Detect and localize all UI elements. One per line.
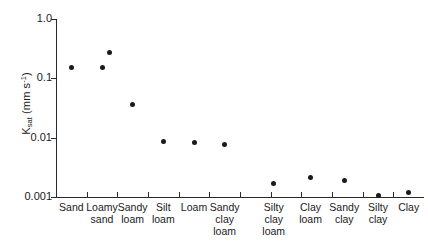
chart-figure: Ksat (mm s-1) 1.00.10.010.001 SandLoamys… bbox=[0, 0, 428, 248]
data-point bbox=[107, 50, 112, 55]
x-axis-category-label-line: loam bbox=[144, 213, 182, 225]
x-axis-category-label: Clay bbox=[390, 201, 428, 213]
x-axis-category-label-line: loam bbox=[255, 225, 293, 237]
x-axis-tick-mark bbox=[301, 192, 302, 198]
x-axis-category-label-line: clay bbox=[359, 213, 397, 225]
x-axis-tick-mark bbox=[87, 192, 88, 198]
x-axis-category-label-line: Silty bbox=[255, 201, 293, 213]
x-axis-category-label-line: loam bbox=[292, 213, 330, 225]
x-axis-category-label-line: clay bbox=[206, 213, 244, 225]
y-axis-tick-label: 0.1 bbox=[6, 72, 52, 83]
x-axis-tick-mark bbox=[179, 192, 180, 198]
x-axis-category-label: Siltyclayloam bbox=[255, 201, 293, 238]
x-axis-tick-mark bbox=[363, 192, 364, 198]
data-point bbox=[130, 102, 135, 107]
y-axis-line bbox=[56, 19, 57, 198]
x-axis-tick-mark bbox=[271, 192, 272, 198]
data-point bbox=[192, 140, 197, 145]
x-axis-category-label: Sandyclayloam bbox=[206, 201, 244, 238]
y-axis-tick-label: 0.01 bbox=[6, 132, 52, 143]
x-axis-category-label: Sandyclay bbox=[325, 201, 363, 225]
x-axis-category-label: Clayloam bbox=[292, 201, 330, 225]
x-axis-category-label-line: Clay bbox=[390, 201, 428, 213]
x-axis-category-label-line: Sandy bbox=[206, 201, 244, 213]
x-axis-category-label-line: clay bbox=[325, 213, 363, 225]
data-point bbox=[161, 139, 166, 144]
y-axis-tick-label: 0.001 bbox=[6, 191, 52, 202]
x-axis-tick-mark bbox=[209, 192, 210, 198]
data-point bbox=[406, 190, 411, 195]
x-axis-category-label-line: Clay bbox=[292, 201, 330, 213]
x-axis-category-label-line: clay bbox=[255, 213, 293, 225]
data-point bbox=[342, 178, 347, 183]
x-axis-tick-mark bbox=[148, 192, 149, 198]
data-point bbox=[308, 175, 313, 180]
x-axis-category-label-line: Sandy bbox=[325, 201, 363, 213]
x-axis-tick-mark bbox=[240, 192, 241, 198]
y-axis-tick-label: 1.0 bbox=[6, 13, 52, 24]
data-point bbox=[100, 65, 105, 70]
x-axis-category-label-line: loam bbox=[206, 225, 244, 237]
x-axis-tick-mark bbox=[332, 192, 333, 198]
x-axis-tick-mark bbox=[393, 192, 394, 198]
y-axis-tick-labels: 1.00.10.010.001 bbox=[0, 0, 52, 248]
x-axis-tick-mark bbox=[117, 192, 118, 198]
data-point bbox=[69, 65, 74, 70]
data-point bbox=[271, 181, 276, 186]
data-point bbox=[222, 142, 227, 147]
